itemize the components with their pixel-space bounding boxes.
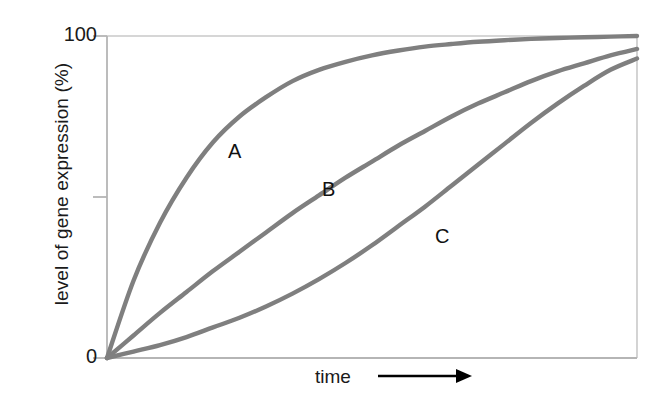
- curve-c: [107, 59, 637, 358]
- y-tick-label-100: 100: [42, 23, 97, 46]
- plot-frame: [107, 36, 637, 358]
- gene-expression-chart: level of gene expression (%) 100 0 A B C…: [0, 0, 663, 402]
- curve-label-a: A: [228, 140, 241, 163]
- chart-canvas: [0, 0, 663, 402]
- curve-label-b: B: [322, 178, 335, 201]
- y-axis-ticks: [93, 36, 107, 358]
- arrow-head: [456, 369, 472, 383]
- y-tick-label-0: 0: [42, 345, 97, 368]
- curve-a: [107, 36, 637, 358]
- y-axis-title: level of gene expression (%): [51, 24, 73, 344]
- curve-b: [107, 49, 637, 358]
- curve-label-c: C: [435, 225, 449, 248]
- data-curves: [107, 36, 637, 358]
- x-axis-title: time: [315, 366, 351, 388]
- time-arrow-icon: [378, 369, 472, 383]
